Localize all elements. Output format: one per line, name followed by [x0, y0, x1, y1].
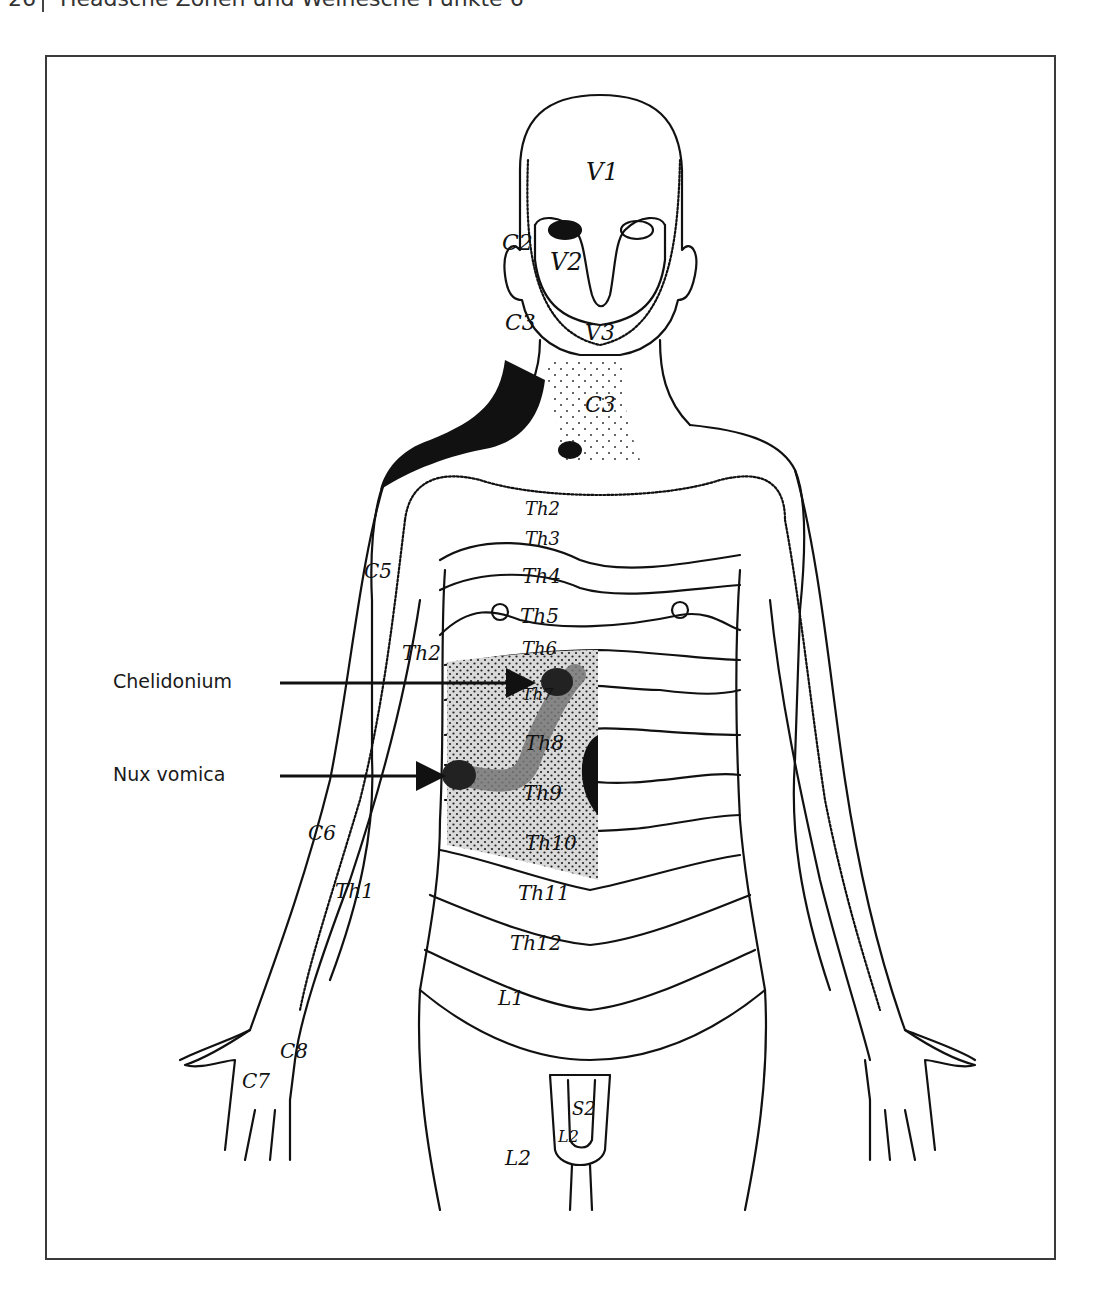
label-th2-arm: Th2 — [402, 641, 441, 665]
label-l2: L2 — [504, 1146, 531, 1170]
arm-right-outer — [795, 470, 975, 1060]
leg-inner-left — [570, 1165, 572, 1210]
leg-inner-right — [590, 1165, 592, 1210]
label-c2: C2 — [502, 230, 533, 255]
label-v2: V2 — [550, 248, 583, 276]
left-eye-dark — [549, 221, 581, 239]
label-th3: Th3 — [525, 528, 560, 549]
shoulder-shaded-zone — [380, 360, 545, 490]
hand-right — [865, 1030, 975, 1160]
callout-nux-vomica-label: Nux vomica — [113, 763, 225, 785]
label-th11: Th11 — [518, 881, 570, 905]
leg-right — [745, 990, 766, 1210]
label-l2-genital: L2 — [557, 1127, 579, 1146]
dermatome-figure: V1 V2 V3 C2 C3 C3 C5 Th2 C6 Th1 C7 C8 Th… — [0, 0, 1101, 1312]
label-c6: C6 — [308, 821, 336, 845]
label-th10: Th10 — [525, 831, 577, 855]
label-v3: V3 — [585, 320, 615, 345]
l1-boundary — [420, 990, 765, 1060]
arm-left-dermatome — [300, 520, 405, 1010]
callout-chelidonium: Chelidonium — [113, 670, 232, 692]
label-c3-chest: C3 — [585, 392, 616, 417]
th2-th3-line — [440, 543, 740, 568]
label-c5: C5 — [364, 559, 392, 583]
label-th8: Th8 — [525, 731, 564, 755]
label-s2: S2 — [572, 1098, 596, 1119]
flank-right — [736, 570, 765, 990]
label-th4: Th4 — [522, 564, 561, 588]
leg-left — [419, 990, 440, 1210]
arm-right-dermatome — [785, 520, 880, 1010]
neck-right — [660, 340, 690, 425]
arm-right-inner — [770, 600, 870, 1060]
th11-th12-line — [430, 895, 750, 945]
nux-vomica-point — [442, 760, 476, 790]
label-th9: Th9 — [523, 781, 562, 805]
label-c7: C7 — [242, 1069, 270, 1093]
th12-l1-line — [425, 950, 755, 1010]
label-th2: Th2 — [525, 498, 560, 519]
label-c8: C8 — [280, 1039, 308, 1063]
label-th7: Th7 — [522, 685, 554, 704]
label-th5: Th5 — [520, 604, 559, 628]
callout-nux-vomica: Nux vomica — [113, 763, 225, 785]
torso-right — [690, 425, 830, 990]
label-c3-neck: C3 — [505, 310, 536, 335]
label-th12: Th12 — [510, 931, 562, 955]
genital-outline — [550, 1075, 610, 1165]
th3-th4-line — [440, 575, 740, 594]
callout-chelidonium-label: Chelidonium — [113, 670, 232, 692]
c4-th2-boundary — [405, 476, 785, 520]
label-th1: Th1 — [335, 879, 374, 903]
label-v1: V1 — [586, 158, 619, 186]
neck-point — [558, 441, 582, 459]
label-th6: Th6 — [522, 638, 557, 659]
th4-th5-line — [440, 612, 740, 635]
label-l1: L1 — [497, 986, 524, 1010]
